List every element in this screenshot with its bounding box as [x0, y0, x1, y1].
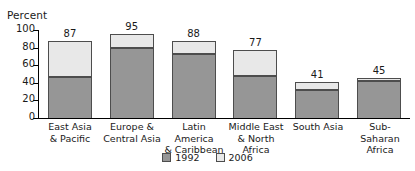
y-axis-tick-label: 40: [22, 76, 35, 87]
y-axis-tick-label: 60: [22, 58, 35, 69]
y-axis-tick-label: 80: [22, 41, 35, 52]
bar-segment-1992[interactable]: [295, 90, 339, 118]
bar-total-label: 41: [311, 69, 324, 80]
bar-segment-2006[interactable]: [295, 82, 339, 90]
bar-slot: 88: [163, 30, 225, 118]
bar-slot: 45: [348, 30, 410, 118]
x-axis-category-label: Sub-SaharanAfrica: [349, 121, 411, 156]
bar-slot: 77: [224, 30, 286, 118]
bar-slot: 95: [101, 30, 163, 118]
chart-legend: 19922006: [0, 152, 415, 163]
x-axis-category-label: Middle East& North Africa: [225, 121, 287, 156]
plot-area: 020406080100 879588774145: [38, 30, 410, 118]
x-axis-line: [38, 118, 410, 119]
bar-total-label: 88: [187, 28, 200, 39]
bar-segment-1992[interactable]: [233, 76, 277, 118]
stacked-bar[interactable]: [233, 50, 277, 118]
bar-segment-2006[interactable]: [233, 50, 277, 76]
bar-total-label: 87: [64, 28, 77, 39]
x-axis-category-label: Europe &Central Asia: [101, 121, 163, 156]
bar-segment-2006[interactable]: [110, 34, 154, 47]
bar-segment-2006[interactable]: [48, 41, 92, 76]
bar-total-label: 95: [125, 21, 138, 32]
bar-segment-1992[interactable]: [48, 77, 92, 118]
bar-total-label: 45: [373, 65, 386, 76]
x-axis-category-label: South Asia: [287, 121, 349, 156]
legend-item[interactable]: 2006: [216, 152, 253, 163]
bar-slot: 87: [39, 30, 101, 118]
stacked-bar-chart: Percent 020406080100 879588774145 East A…: [0, 0, 415, 171]
legend-swatch-icon: [162, 153, 171, 162]
y-axis-tick-label: 100: [16, 23, 35, 34]
bar-segment-1992[interactable]: [172, 54, 216, 118]
bar-total-label: 77: [249, 37, 262, 48]
legend-swatch-icon: [216, 153, 225, 162]
bar-segment-1992[interactable]: [110, 48, 154, 118]
legend-item[interactable]: 1992: [162, 152, 199, 163]
x-axis-category-labels: East Asia& PacificEurope &Central AsiaLa…: [39, 121, 411, 156]
stacked-bar[interactable]: [110, 34, 154, 118]
bar-group: 879588774145: [39, 30, 410, 118]
legend-label: 1992: [175, 152, 199, 163]
y-axis-tick-label: 0: [29, 111, 35, 122]
stacked-bar[interactable]: [295, 82, 339, 118]
legend-label: 2006: [229, 152, 253, 163]
x-axis-category-label: East Asia& Pacific: [39, 121, 101, 156]
stacked-bar[interactable]: [172, 41, 216, 118]
bar-segment-1992[interactable]: [357, 81, 401, 118]
bar-segment-2006[interactable]: [172, 41, 216, 54]
stacked-bar[interactable]: [48, 41, 92, 118]
bar-slot: 41: [286, 30, 348, 118]
y-axis-tick-label: 20: [22, 93, 35, 104]
x-axis-category-label: Latin America& Caribbean: [163, 121, 225, 156]
stacked-bar[interactable]: [357, 78, 401, 118]
y-axis-title: Percent: [7, 9, 47, 21]
